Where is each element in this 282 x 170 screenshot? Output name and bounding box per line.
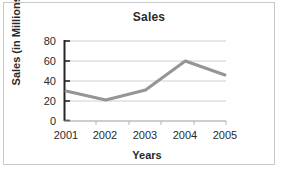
y-axis bbox=[64, 40, 70, 121]
x-axis-title: Years bbox=[62, 149, 232, 161]
x-axis bbox=[64, 121, 226, 125]
x-tick-label: 2003 bbox=[125, 129, 165, 141]
x-tick-label: 2002 bbox=[85, 129, 125, 141]
x-tick-label: 2001 bbox=[46, 129, 86, 141]
x-tick-label: 2005 bbox=[205, 129, 245, 141]
gridlines bbox=[64, 41, 226, 101]
chart-frame: Sales Sales (in Millions) 80 60 40 20 0 bbox=[3, 2, 275, 165]
plot-area bbox=[4, 3, 276, 166]
x-tick-label: 2004 bbox=[165, 129, 205, 141]
